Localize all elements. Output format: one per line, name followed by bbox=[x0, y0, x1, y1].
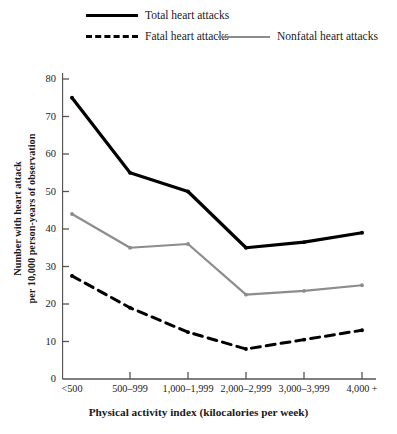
chart-legend: Total heart attacks Fatal heart attacks … bbox=[0, 6, 397, 50]
legend-swatch-solid-black-icon bbox=[86, 14, 138, 17]
data-point-marker bbox=[128, 171, 132, 175]
y-tick-label: 30 bbox=[46, 262, 57, 273]
data-point-marker bbox=[302, 289, 306, 293]
y-tick-label: 70 bbox=[46, 112, 57, 123]
legend-item-total-heart-attacks: Total heart attacks bbox=[86, 10, 229, 22]
legend-item-fatal-heart-attacks: Fatal heart attacks bbox=[86, 31, 229, 43]
legend-label-nonfatal-heart-attacks: Nonfatal heart attacks bbox=[277, 31, 378, 43]
y-tick-label: 60 bbox=[46, 149, 57, 160]
y-tick-label: 40 bbox=[46, 224, 57, 235]
data-point-marker bbox=[244, 293, 248, 297]
data-point-marker bbox=[360, 328, 364, 332]
legend-label-total-heart-attacks: Total heart attacks bbox=[145, 10, 229, 22]
x-axis-title: Physical activity index (kilocalories pe… bbox=[0, 406, 397, 418]
y-tick-label: 50 bbox=[46, 187, 57, 198]
x-tick-label: 4,000 + bbox=[346, 384, 377, 394]
y-tick-label: 20 bbox=[46, 299, 57, 310]
y-tick-label: 10 bbox=[46, 337, 57, 348]
y-axis-title-line-2: per 10,000 person-years of observation bbox=[24, 99, 38, 339]
x-tick-label: 1,000–1,999 bbox=[163, 384, 214, 394]
x-tick-label: 500–999 bbox=[112, 384, 148, 394]
data-point-marker bbox=[186, 190, 190, 194]
x-tick-label: <500 bbox=[61, 384, 82, 394]
data-point-marker bbox=[128, 246, 132, 250]
y-tick-label: 0 bbox=[51, 374, 56, 385]
data-point-marker bbox=[70, 274, 74, 278]
data-point-marker bbox=[360, 283, 364, 287]
y-axis-title-line-1: Number with heart attack bbox=[11, 99, 25, 339]
data-point-marker bbox=[186, 242, 190, 246]
data-point-marker bbox=[302, 338, 306, 342]
plot-area bbox=[62, 57, 380, 382]
x-tick-label: 3,000–3,999 bbox=[279, 384, 330, 394]
data-point-marker bbox=[186, 330, 190, 334]
data-point-marker bbox=[302, 240, 306, 244]
data-point-marker bbox=[244, 246, 248, 250]
series-line bbox=[72, 214, 362, 295]
data-point-marker bbox=[128, 306, 132, 310]
legend-label-fatal-heart-attacks: Fatal heart attacks bbox=[145, 31, 229, 43]
chart-figure: Total heart attacks Fatal heart attacks … bbox=[0, 0, 397, 434]
data-point-marker bbox=[360, 231, 364, 235]
legend-swatch-dashed-black-icon bbox=[86, 35, 138, 38]
y-axis-title: Number with heart attack per 10,000 pers… bbox=[11, 99, 38, 339]
data-point-marker bbox=[70, 212, 74, 216]
series-line bbox=[72, 98, 362, 248]
y-tick-label: 80 bbox=[46, 74, 57, 85]
x-axis-tick-labels: <500500–9991,000–1,9992,000–2,9993,000–3… bbox=[0, 384, 397, 400]
legend-swatch-solid-gray-icon bbox=[218, 36, 270, 38]
plot-svg bbox=[62, 57, 380, 382]
legend-item-nonfatal-heart-attacks: Nonfatal heart attacks bbox=[218, 31, 378, 43]
data-point-marker bbox=[244, 347, 248, 351]
series-line bbox=[72, 276, 362, 349]
data-point-marker bbox=[70, 96, 74, 100]
x-tick-label: 2,000–2,999 bbox=[221, 384, 272, 394]
